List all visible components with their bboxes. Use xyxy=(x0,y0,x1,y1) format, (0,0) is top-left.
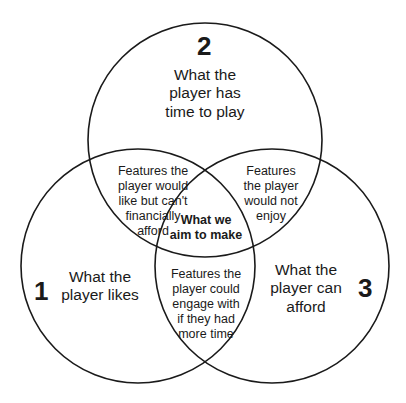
circle-1-number: 1 xyxy=(34,278,48,304)
circle-2-label: What the player has time to play xyxy=(145,66,265,121)
circle-3-label: What the player can afford xyxy=(260,261,352,316)
circle-3-number: 3 xyxy=(358,275,372,301)
intersection-1-3-label: Features the player could engage with if… xyxy=(160,267,252,342)
intersection-center-label: What we aim to make xyxy=(160,213,252,243)
circle-1-label: What the player likes xyxy=(55,268,145,305)
circle-2-number: 2 xyxy=(197,33,211,59)
